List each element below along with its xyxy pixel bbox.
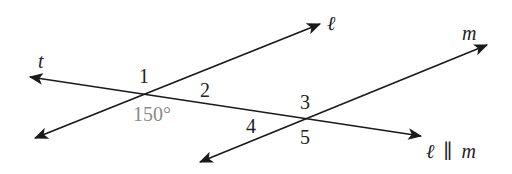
statement-right: m [462, 140, 476, 162]
angle-2-label: 2 [200, 79, 210, 101]
label-m: m [462, 22, 476, 44]
angle-5-label: 5 [300, 126, 310, 148]
diagram-canvas: t ℓ m 1 2 150° 3 4 5 ℓ ∥ m [0, 0, 512, 174]
angle-1-label: 1 [139, 65, 149, 87]
parallel-statement: ℓ ∥ m [426, 140, 476, 162]
statement-left: ℓ [426, 140, 435, 162]
given-angle-label: 150° [133, 103, 171, 125]
diagram-svg: t ℓ m 1 2 150° 3 4 5 ℓ ∥ m [0, 0, 512, 174]
label-l: ℓ [327, 12, 336, 34]
parallel-symbol: ∥ [443, 140, 452, 162]
transversal-t-line [30, 77, 421, 136]
line-l [35, 24, 320, 138]
angle-3-label: 3 [300, 91, 310, 113]
label-t: t [38, 50, 44, 72]
angle-4-label: 4 [246, 115, 256, 137]
